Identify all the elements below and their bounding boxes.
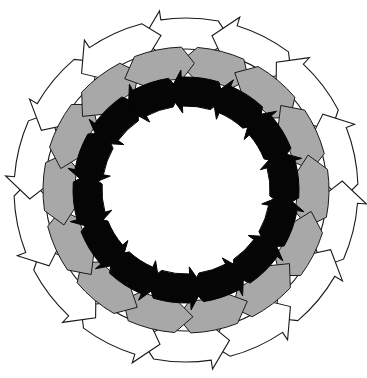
circular-arrows-diagram	[0, 0, 367, 378]
